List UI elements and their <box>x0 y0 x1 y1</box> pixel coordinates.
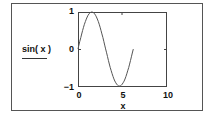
x-tick-0: 0 <box>69 90 89 100</box>
sine-curve <box>0 0 210 119</box>
x-tick-5: 5 <box>113 90 133 100</box>
x-axis-title[interactable]: x <box>118 101 128 111</box>
x-tick-10: 10 <box>158 90 178 100</box>
